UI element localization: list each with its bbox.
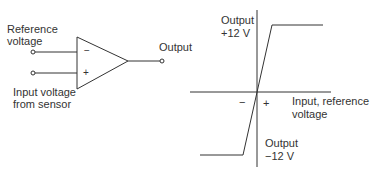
reference-terminal <box>31 50 35 54</box>
x-axis-plus-sign: + <box>263 97 269 109</box>
output-label: Output <box>159 41 192 53</box>
reference-label-line1: Reference <box>7 23 58 35</box>
input-label-line1: Input voltage <box>13 86 76 98</box>
x-axis-label-line1: Input, reference <box>292 95 369 107</box>
reference-label-line2: voltage <box>7 35 42 47</box>
op-amp-symbol <box>31 37 164 89</box>
diagram-canvas: Reference voltage − + Output Input volta… <box>0 0 375 176</box>
noninverting-input-sign: + <box>83 67 89 79</box>
x-axis-minus-sign: − <box>239 96 245 108</box>
x-axis-label-line2: voltage <box>292 108 327 120</box>
sensor-terminal <box>31 71 35 75</box>
transfer-graph <box>190 10 331 167</box>
input-label-line2: from sensor <box>13 98 71 110</box>
output-terminal <box>160 59 164 63</box>
output-negative-label-line1: Output <box>265 137 298 149</box>
output-negative-label-line2: −12 V <box>265 150 294 162</box>
inverting-input-sign: − <box>84 45 90 57</box>
output-positive-label-line1: Output <box>221 14 254 26</box>
transfer-curve <box>200 25 323 155</box>
output-positive-label-line2: +12 V <box>221 27 250 39</box>
